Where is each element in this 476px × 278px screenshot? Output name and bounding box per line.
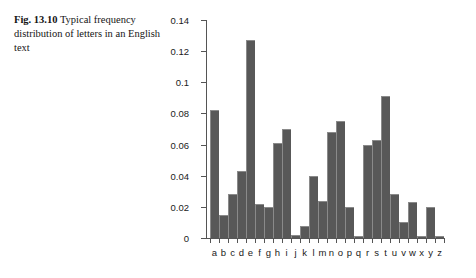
bar-a <box>210 110 219 238</box>
bar-p <box>345 207 354 238</box>
y-axis-tick <box>201 238 206 239</box>
x-axis-tick-label: s <box>374 247 379 258</box>
x-axis-tick <box>444 238 445 243</box>
x-axis-tick-label: o <box>338 247 343 258</box>
bar-n <box>327 132 336 238</box>
y-axis-tick-label: 0.12 <box>171 46 190 57</box>
x-axis-tick <box>282 238 283 243</box>
y-axis-tick-label: 0.02 <box>171 201 190 212</box>
x-axis-tick <box>327 238 328 243</box>
figure-caption: Fig. 13.10 Typical frequency distributio… <box>14 13 166 56</box>
x-axis-tick <box>291 238 292 243</box>
x-axis-tick <box>318 238 319 243</box>
x-axis-tick <box>237 238 238 243</box>
bar-h <box>273 143 282 238</box>
x-axis-tick-label: e <box>248 247 253 258</box>
x-axis-tick <box>336 238 337 243</box>
bar-y <box>426 207 435 238</box>
x-axis-tick-label: y <box>428 247 433 258</box>
x-axis-tick-label: d <box>239 247 244 258</box>
bar-i <box>282 129 291 238</box>
x-axis-tick <box>399 238 400 243</box>
y-axis-tick-label: 0 <box>184 233 189 244</box>
bar-x <box>417 236 426 238</box>
x-axis-line <box>206 238 445 239</box>
bar-u <box>390 194 399 238</box>
x-axis-tick <box>372 238 373 243</box>
x-axis-tick-label: r <box>366 247 369 258</box>
y-axis-tick <box>201 176 206 177</box>
x-axis-tick <box>417 238 418 243</box>
bar-w <box>408 202 417 238</box>
x-axis-tick <box>381 238 382 243</box>
x-axis-tick-label: c <box>230 247 235 258</box>
x-axis-tick-label: l <box>312 247 314 258</box>
x-axis-tick <box>264 238 265 243</box>
x-axis-tick <box>228 238 229 243</box>
bar-v <box>399 222 408 238</box>
x-axis-tick-label: z <box>437 247 442 258</box>
bar-q <box>354 236 363 238</box>
figure-page: Fig. 13.10 Typical frequency distributio… <box>0 0 476 278</box>
bar-g <box>264 207 273 238</box>
x-axis-tick <box>435 238 436 243</box>
y-axis-tick <box>201 51 206 52</box>
x-axis-tick-label: p <box>347 247 352 258</box>
y-axis-tick-label: 0.08 <box>171 108 190 119</box>
bar-z <box>435 236 444 238</box>
x-axis-tick-label: x <box>419 247 424 258</box>
x-axis-tick-label: t <box>384 247 387 258</box>
y-axis-tick <box>201 145 206 146</box>
x-axis-tick-label: v <box>401 247 406 258</box>
x-axis-tick <box>390 238 391 243</box>
bar-b <box>219 215 228 238</box>
x-axis-tick <box>408 238 409 243</box>
x-axis-tick <box>309 238 310 243</box>
bar-t <box>381 96 390 238</box>
y-axis-tick-label: 0.14 <box>171 15 190 26</box>
x-axis-tick-label: m <box>319 247 327 258</box>
bar-m <box>318 201 327 238</box>
y-axis-line <box>206 20 207 239</box>
y-axis-tick <box>201 113 206 114</box>
x-axis-tick <box>246 238 247 243</box>
x-axis-tick-label: a <box>212 247 217 258</box>
bar-s <box>372 140 381 238</box>
bar-r <box>363 145 372 238</box>
x-axis-tick-label: f <box>258 247 261 258</box>
bar-d <box>237 171 246 238</box>
y-axis-tick <box>201 207 206 208</box>
bar-c <box>228 194 237 238</box>
x-axis-tick <box>273 238 274 243</box>
bar-l <box>309 176 318 238</box>
x-axis-tick <box>426 238 427 243</box>
bar-o <box>336 121 345 238</box>
bar-j <box>291 235 300 238</box>
x-axis-tick <box>210 238 211 243</box>
x-axis-tick <box>219 238 220 243</box>
x-axis-tick-label: b <box>221 247 226 258</box>
x-axis-tick-label: g <box>266 247 271 258</box>
x-axis-tick <box>255 238 256 243</box>
x-axis-tick <box>354 238 355 243</box>
x-axis-tick-label: j <box>294 247 296 258</box>
x-axis-tick-label: n <box>329 247 334 258</box>
x-axis-tick <box>345 238 346 243</box>
letter-frequency-bar-chart: 00.020.040.060.080.10.120.14 abcdefghijk… <box>178 12 468 270</box>
figure-number: Fig. 13.10 <box>14 14 57 25</box>
y-axis-tick-label: 0.1 <box>176 77 189 88</box>
x-axis-tick-label: h <box>275 247 280 258</box>
plot-area: 00.020.040.060.080.10.120.14 abcdefghijk… <box>210 20 444 238</box>
y-axis-tick-label: 0.04 <box>171 170 190 181</box>
y-axis-tick <box>201 20 206 21</box>
y-axis-tick <box>201 82 206 83</box>
bar-k <box>300 226 309 238</box>
bar-series <box>210 20 444 238</box>
x-axis-tick-label: w <box>409 247 416 258</box>
x-axis-tick-label: u <box>392 247 397 258</box>
x-axis-tick <box>363 238 364 243</box>
x-axis-tick <box>300 238 301 243</box>
y-axis-tick-label: 0.06 <box>171 139 190 150</box>
x-axis-tick-label: i <box>285 247 287 258</box>
x-axis-tick-label: q <box>356 247 361 258</box>
